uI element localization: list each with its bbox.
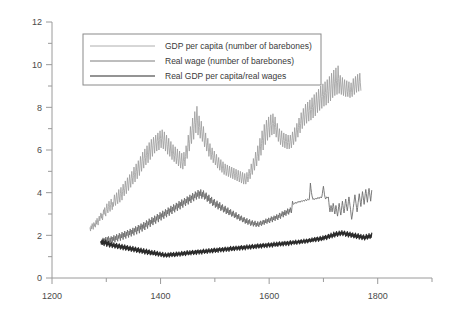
x-tick-label: 1800 xyxy=(368,291,388,301)
chart-figure: 024681012 1200140016001800 GDP per capit… xyxy=(0,0,450,329)
x-tick-label: 1400 xyxy=(151,291,171,301)
y-tick-label: 2 xyxy=(37,231,42,241)
legend-label-2: Real GDP per capita/real wages xyxy=(165,71,286,81)
y-tick-label: 12 xyxy=(32,17,42,27)
y-tick-label: 4 xyxy=(37,188,42,198)
legend-label-1: Real wage (number of barebones) xyxy=(165,56,294,66)
x-tick-label: 1600 xyxy=(259,291,279,301)
y-tick-label: 8 xyxy=(37,103,42,113)
x-tick-label: 1200 xyxy=(42,291,62,301)
legend-label-0: GDP per capita (number of barebones) xyxy=(165,41,312,51)
chart-legend: GDP per capita (number of barebones)Real… xyxy=(83,34,321,85)
y-tick-label: 10 xyxy=(32,60,42,70)
y-tick-label: 0 xyxy=(37,273,42,283)
y-tick-label: 6 xyxy=(37,145,42,155)
